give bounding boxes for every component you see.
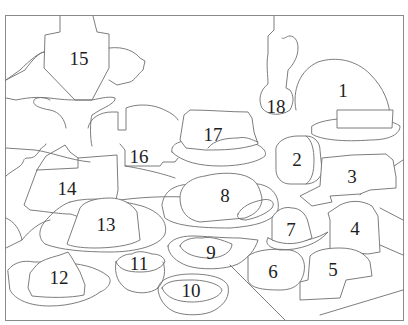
label-11: 11 — [130, 253, 148, 274]
label-14: 14 — [58, 178, 78, 199]
label-16: 16 — [130, 146, 149, 167]
label-8: 8 — [220, 185, 230, 206]
label-6: 6 — [268, 261, 278, 282]
region-7[interactable] — [267, 207, 328, 250]
region-16[interactable] — [88, 105, 178, 178]
coloring-page: 1 2 3 4 5 6 7 8 9 10 11 12 13 14 15 16 1… — [0, 0, 408, 325]
label-13: 13 — [97, 214, 116, 235]
label-4: 4 — [350, 218, 360, 239]
label-5: 5 — [328, 259, 338, 280]
label-7: 7 — [286, 219, 296, 240]
region-15[interactable] — [6, 16, 145, 146]
label-10: 10 — [182, 280, 201, 301]
label-15: 15 — [70, 48, 89, 69]
label-12: 12 — [50, 267, 69, 288]
label-17: 17 — [204, 124, 223, 145]
label-9: 9 — [206, 242, 216, 263]
label-2: 2 — [292, 149, 302, 170]
label-1: 1 — [338, 80, 348, 101]
label-18: 18 — [267, 96, 286, 117]
label-3: 3 — [347, 166, 357, 187]
